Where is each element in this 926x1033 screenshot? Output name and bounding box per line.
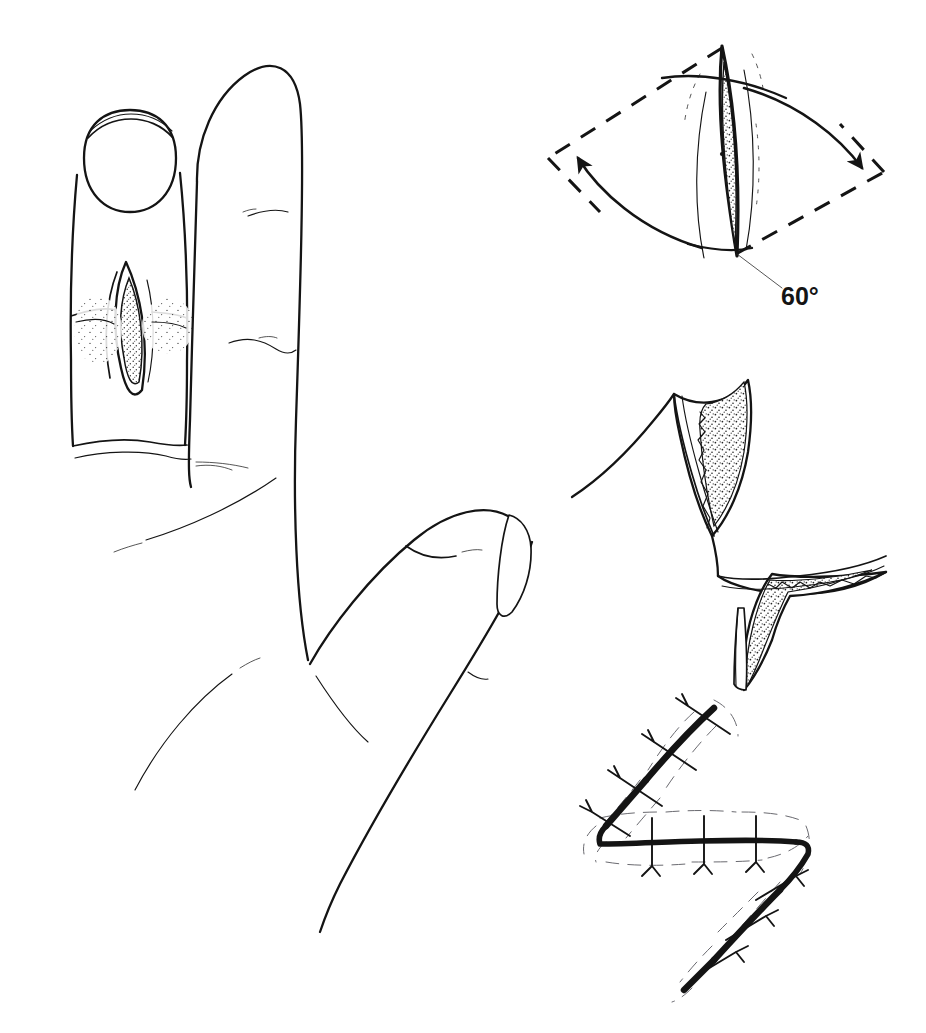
thumb [310, 510, 532, 932]
lens-stipple [722, 62, 736, 246]
fingernail [84, 110, 176, 212]
panel-flaps [572, 380, 886, 690]
rotation-arrow-right [744, 88, 862, 168]
panel-design: 60° [548, 46, 884, 310]
web-space [73, 440, 248, 468]
illustration-canvas: 60° [0, 0, 926, 1033]
interrupted-sutures [580, 694, 808, 976]
rotation-arrow-left [578, 158, 702, 248]
illustration-figure: Four-panel surgical line drawing. Left: … [0, 0, 926, 1033]
panel-closure [580, 694, 809, 1002]
lower-limb-incision [714, 890, 780, 960]
central-lens-scar [662, 46, 786, 258]
scar-pucker-left [74, 296, 122, 364]
thumb-nail [497, 515, 531, 616]
angle-annotation: 60° [737, 254, 819, 310]
scar-pucker-right [142, 298, 194, 354]
panel-hand [71, 66, 532, 932]
upper-triangular-flap [572, 380, 751, 576]
palm [114, 465, 276, 790]
wound-edge-guides [584, 700, 810, 1002]
dashed-limb-upper-left [548, 48, 722, 158]
adjacent-finger [189, 66, 308, 660]
scar-contracture [74, 262, 194, 394]
dashed-limb-lower-left [548, 158, 600, 212]
leader-line [737, 254, 782, 288]
dashed-limb-lower-right [736, 172, 884, 254]
lower-triangular-flap [718, 556, 886, 690]
angle-label: 60° [781, 282, 819, 310]
